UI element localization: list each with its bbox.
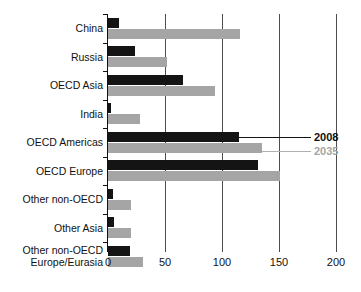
bar-2008 bbox=[108, 132, 239, 142]
bar-group bbox=[108, 214, 336, 243]
category-label-line: OECD Asia bbox=[3, 79, 103, 91]
xtick-label-100: 100 bbox=[202, 256, 242, 268]
bar-2035 bbox=[108, 114, 140, 124]
xtick-label-150: 150 bbox=[259, 256, 299, 268]
bar-2035 bbox=[108, 228, 131, 238]
category-label-line: India bbox=[3, 108, 103, 120]
bar-2008 bbox=[108, 160, 258, 170]
category-label: OECD Asia bbox=[3, 79, 107, 91]
bar-2008 bbox=[108, 46, 135, 56]
bar-group bbox=[108, 14, 336, 43]
category-label: Other Asia bbox=[3, 222, 107, 234]
legend-leader-line-2008 bbox=[239, 137, 311, 138]
category-label-line: Other non-OECD bbox=[3, 244, 103, 256]
category-label: Russia bbox=[3, 51, 107, 63]
bar-2035 bbox=[108, 200, 131, 210]
bar-group bbox=[108, 71, 336, 100]
bar-2008 bbox=[108, 103, 111, 113]
bar-2008 bbox=[108, 246, 130, 256]
bar-2035 bbox=[108, 57, 167, 67]
bar-2008 bbox=[108, 217, 114, 227]
legend-label-2035: 2035 bbox=[314, 145, 338, 157]
plot-area bbox=[108, 14, 336, 252]
xtick-label-200: 200 bbox=[316, 256, 356, 268]
category-label-line: China bbox=[3, 22, 103, 34]
category-label-line: Russia bbox=[3, 51, 103, 63]
category-label-line: OECD Europe bbox=[3, 165, 103, 177]
bar-group bbox=[108, 185, 336, 214]
xtick-label-0: 0 bbox=[88, 256, 128, 268]
category-label: India bbox=[3, 108, 107, 120]
xtick-label-50: 50 bbox=[145, 256, 185, 268]
bar-2008 bbox=[108, 189, 113, 199]
legend-label-2008: 2008 bbox=[314, 131, 338, 143]
bar-2035 bbox=[108, 143, 262, 153]
category-label-line: OECD Americas bbox=[3, 136, 103, 148]
bar-group bbox=[108, 157, 336, 186]
category-label: OECD Americas bbox=[3, 136, 107, 148]
bar-group bbox=[108, 128, 336, 157]
category-label: OECD Europe bbox=[3, 165, 107, 177]
bar-2008 bbox=[108, 18, 119, 28]
category-axis-labels: ChinaRussiaOECD AsiaIndiaOECD AmericasOE… bbox=[0, 14, 107, 252]
bar-2035 bbox=[108, 29, 240, 39]
legend-leader-line-2035 bbox=[262, 151, 311, 152]
bar-2035 bbox=[108, 171, 280, 181]
bar-2008 bbox=[108, 75, 183, 85]
bar-group bbox=[108, 43, 336, 72]
bar-2035 bbox=[108, 86, 215, 96]
category-label: Other non-OECD bbox=[3, 193, 107, 205]
category-label-line: Other Asia bbox=[3, 222, 103, 234]
category-label: China bbox=[3, 22, 107, 34]
bar-group bbox=[108, 100, 336, 129]
category-label-line: Other non-OECD bbox=[3, 193, 103, 205]
bar-chart: ChinaRussiaOECD AsiaIndiaOECD AmericasOE… bbox=[0, 0, 361, 292]
